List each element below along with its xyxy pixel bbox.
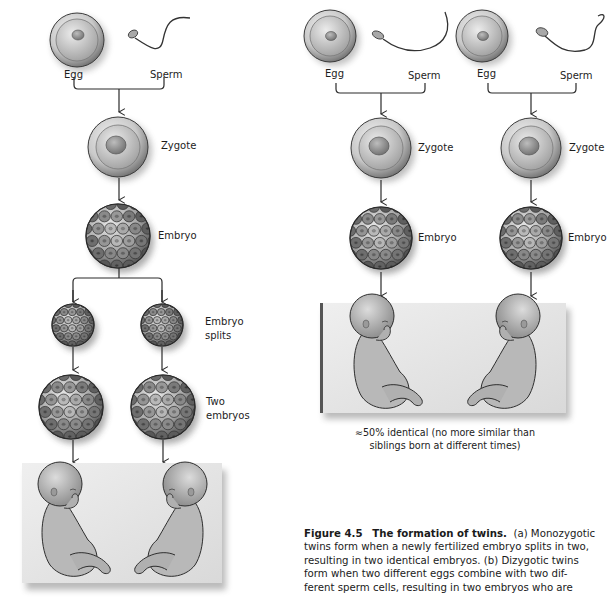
identical-twins-fetus-panel [22,462,226,590]
split-embryo-right-icon [137,300,189,351]
sperm-icon [371,12,448,51]
dizygotic-result-caption: ≈50% identical (no more similar than sib… [340,426,550,452]
label-egg-1: Egg [325,68,344,80]
figure-caption-text-3: form when two different eggs combine wit… [304,567,608,580]
label-zygote-2: Zygote [569,142,604,154]
diagram-canvas [0,0,608,597]
figure-number: Figure 4.5 [304,528,363,539]
sperm-icon [127,17,190,48]
merge-bracket-2 [488,83,576,93]
label-sperm-1: Sperm [408,70,441,82]
twins-diagram: Egg Sperm Zygote Embryo Embryo splits Tw… [0,0,608,597]
result-caption-line-2: siblings born at different times) [340,439,550,452]
egg-icon [456,10,512,66]
embryo-1-icon [344,202,421,274]
label-zygote-1: Zygote [418,142,453,154]
zygote-icon [88,117,152,181]
figure-title: The formation of twins. [372,528,507,539]
egg-icon [304,10,360,66]
label-embryo-1: Embryo [418,232,457,244]
zygote-icon [351,118,415,182]
label-embryo-2: Embryo [568,232,607,244]
sperm-icon [535,15,604,52]
label-embryo-splits-1: Embryo [205,316,244,328]
embryo-2-icon [494,202,571,274]
figure-caption: Figure 4.5 The formation of twins. (a) M… [304,527,608,594]
split-embryo-left-icon [48,300,100,351]
label-two-embryos-1: Two [206,396,225,408]
egg-icon [50,13,108,72]
label-egg: Egg [64,69,83,81]
zygote-icon [501,118,565,182]
figure-caption-text-2: resulting in two identical embryos. (b) … [304,554,608,567]
panel-a-monozygotic [22,13,226,590]
label-sperm: Sperm [150,69,183,81]
result-caption-line-1: ≈50% identical (no more similar than [340,426,550,439]
two-embryos-right-icon [125,369,204,444]
split-branch [73,268,162,302]
label-sperm-2: Sperm [560,70,593,82]
label-zygote: Zygote [161,140,196,152]
merge-bracket-1 [336,83,425,93]
figure-caption-line-1: Figure 4.5 The formation of twins. (a) M… [304,527,608,540]
label-embryo-splits-2: splits [205,330,231,342]
figure-caption-text-0: (a) Monozygotic [513,528,595,539]
label-egg-2: Egg [477,68,496,80]
label-two-embryos-2: embryos [206,410,250,422]
fraternal-twins-fetus-panel [320,294,570,419]
label-embryo: Embryo [158,230,197,242]
embryo-icon [80,198,159,273]
panel-b-dizygotic [304,10,604,419]
figure-caption-text-4: ferent sperm cells, resulting in two emb… [304,581,608,594]
figure-caption-text-1: twins form when a newly fertilized embry… [304,540,608,553]
two-embryos-left-icon [33,369,112,444]
